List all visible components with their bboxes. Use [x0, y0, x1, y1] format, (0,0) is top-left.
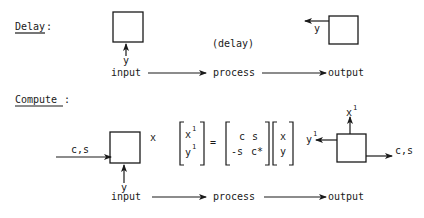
compute-flow-input: input [111, 191, 141, 202]
delay-section: Delay : y input (delay) process output y [15, 12, 364, 78]
delay-output-signal: y [314, 23, 320, 34]
lhs-x-sup: 1 [192, 125, 196, 133]
compute-right-output: c,s [395, 145, 413, 156]
compute-label: Compute [15, 94, 57, 105]
lhs-y: y [185, 147, 191, 158]
compute-flow-output: output [328, 191, 364, 202]
matrix-12: s [252, 131, 258, 142]
compute-section: Compute : c,s x y input x 1 y 1 = c s -s… [15, 94, 413, 202]
delay-label: Delay [15, 21, 45, 32]
equals-sign: = [210, 137, 216, 148]
matrix-11: c [239, 131, 245, 142]
compute-stored-value: x [150, 132, 156, 143]
vector-x: x [280, 131, 286, 142]
delay-input-cell [113, 12, 143, 42]
compute-left-output-sup: 1 [313, 130, 317, 138]
compute-left-output: y [306, 134, 312, 145]
matrix-21: -s [231, 146, 243, 157]
rotation-equation: x 1 y 1 = c s -s c* x y [180, 122, 293, 165]
vector-bracket-right [289, 122, 293, 165]
lhs-bracket-right [200, 122, 204, 165]
compute-flow-process: process [213, 191, 255, 202]
delay-flow-process: process [213, 67, 255, 78]
compute-left-input: c,s [71, 144, 89, 155]
delay-annotation: (delay) [212, 38, 254, 49]
delay-input-signal: y [123, 55, 129, 66]
delay-output-cell [329, 16, 358, 44]
vector-y: y [280, 146, 286, 157]
vector-bracket-left [273, 122, 277, 165]
compute-output-cell [337, 134, 366, 162]
delay-label-colon: : [46, 21, 52, 32]
delay-flow-output: output [328, 67, 364, 78]
lhs-bracket-left [180, 122, 184, 165]
delay-flow-input: input [111, 67, 141, 78]
matrix-bracket-left [226, 122, 230, 165]
compute-top-output-sup: 1 [353, 104, 357, 112]
compute-input-cell [110, 132, 140, 163]
matrix-22: c* [251, 146, 263, 157]
compute-top-output: x [346, 107, 352, 118]
lhs-x: x [185, 129, 191, 140]
compute-label-colon: : [64, 94, 70, 105]
systolic-diagram: Delay : y input (delay) process output y… [0, 0, 424, 218]
lhs-y-sup: 1 [192, 143, 196, 151]
matrix-bracket-right [265, 122, 269, 165]
